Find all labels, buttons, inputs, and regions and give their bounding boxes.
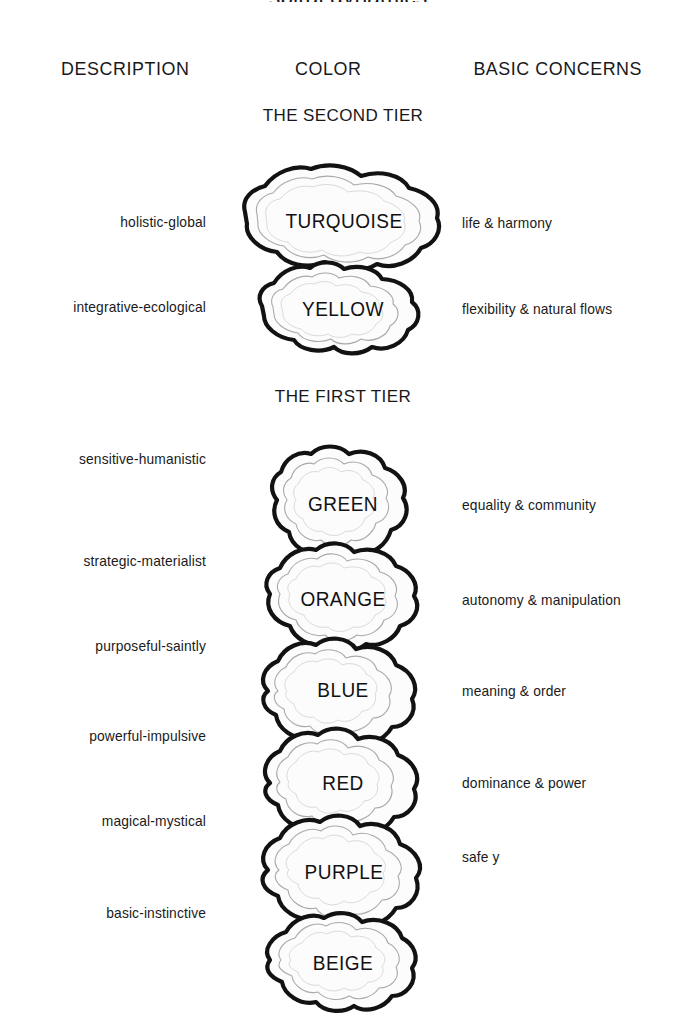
blob-label-red: RED: [322, 772, 364, 795]
concern-equality-community: equality & community: [462, 496, 596, 513]
column-header-basic-concerns: BASIC CONCERNS: [473, 58, 642, 80]
blob-label-purple: PURPLE: [305, 861, 384, 884]
description-basic-instinctive: basic-instinctive: [16, 904, 206, 921]
blob-label-beige: BEIGE: [313, 952, 373, 975]
concern-dominance-power: dominance & power: [462, 774, 586, 791]
tier-label-second: THE SECOND TIER: [233, 106, 453, 126]
concern-autonomy-manipulation: autonomy & manipulation: [462, 591, 621, 608]
chart-sheet: spiral dynamics DESCRIPTION COLOR BASIC …: [0, 0, 696, 1031]
description-powerful-impulsive: powerful-impulsive: [16, 727, 206, 744]
concern-safety: safe y: [462, 848, 500, 865]
description-holistic-global: holistic-global: [16, 213, 206, 230]
concern-life-harmony: life & harmony: [462, 214, 552, 231]
tier-label-first: THE FIRST TIER: [233, 387, 453, 407]
blob-label-yellow: YELLOW: [302, 298, 384, 321]
blob-label-blue: BLUE: [317, 679, 369, 702]
blob-label-turquoise: TURQUOISE: [285, 210, 402, 233]
blob-label-orange: ORANGE: [300, 588, 385, 611]
description-sensitive-humanistic: sensitive-humanistic: [16, 450, 206, 467]
description-purposeful-saintly: purposeful-saintly: [16, 637, 206, 654]
concern-flexibility-natural-flows: flexibility & natural flows: [462, 300, 612, 317]
blob-label-green: GREEN: [308, 493, 378, 516]
page-title-cropped: spiral dynamics: [0, 0, 696, 2]
column-header-description: DESCRIPTION: [61, 58, 189, 80]
concern-meaning-order: meaning & order: [462, 682, 566, 699]
description-strategic-materialist: strategic-materialist: [16, 552, 206, 569]
description-magical-mystical: magical-mystical: [16, 812, 206, 829]
column-header-color: COLOR: [295, 58, 361, 80]
description-integrative-ecological: integrative-ecological: [16, 298, 206, 315]
